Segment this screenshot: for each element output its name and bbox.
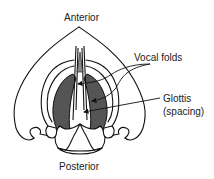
- larynx-diagram: [0, 0, 214, 179]
